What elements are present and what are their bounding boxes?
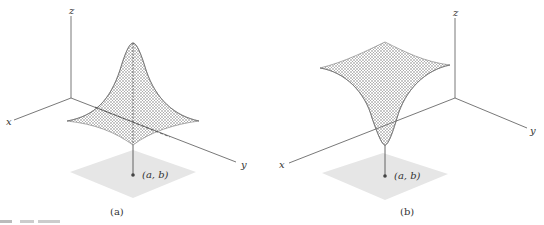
y-axis (455, 98, 527, 128)
figure-canvas: z x y (a, b) (a) z x y (a, b) (b) (0, 0, 544, 225)
caption-b: (b) (400, 206, 414, 217)
panel-a: z x y (a, b) (a) (6, 5, 247, 217)
point-ab (383, 174, 387, 178)
y-label: y (529, 125, 536, 136)
cutoff-caption-fragment (38, 220, 60, 223)
cutoff-caption-fragment (0, 220, 12, 223)
x-label: x (279, 159, 285, 170)
x-axis (14, 98, 71, 120)
point-label: (a, b) (142, 169, 169, 180)
y-label: y (240, 159, 247, 170)
x-label: x (6, 116, 12, 127)
cutoff-caption-fragment (20, 220, 34, 223)
panel-b: z x y (a, b) (b) (279, 7, 536, 217)
point-ab (131, 173, 135, 177)
caption-a: (a) (110, 206, 124, 217)
z-label: z (68, 5, 75, 16)
surface-mesh (320, 42, 450, 145)
z-label: z (452, 7, 459, 18)
point-label: (a, b) (394, 170, 421, 181)
